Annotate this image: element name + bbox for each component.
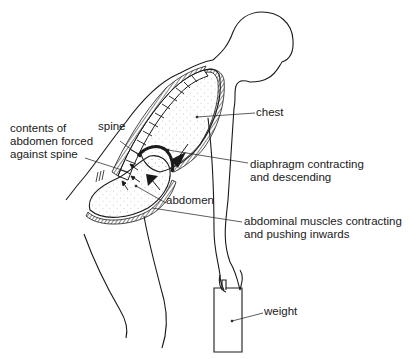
leg-back-outline [84,234,127,338]
label-weight: weight [264,305,297,318]
label-spine: spine [98,120,126,133]
label-diaphragm-line2: and descending [250,171,331,184]
label-chest: chest [256,106,284,119]
hand-outline [219,270,242,292]
diagram-drawing [0,0,409,359]
trunk-pressure-diagram: chest spine contents of abdomen forced a… [0,0,409,359]
buttock-outline [66,175,86,200]
label-abdomen: abdomen [166,194,214,207]
head-outline [213,12,293,108]
label-muscles-line2: and pushing inwards [244,228,350,241]
pelvis-spikes [96,170,104,182]
label-contents-line2: abdomen forced [10,135,93,148]
weight-outline [214,280,242,352]
label-contents-line3: against spine [10,148,78,161]
label-diaphragm-line1: diaphragm contracting [250,158,364,171]
label-muscles-line1: abdominal muscles contracting [244,215,402,228]
arm-outline-outer [225,108,240,290]
leg-front-outline [144,216,166,348]
label-contents-line1: contents of [10,122,66,135]
